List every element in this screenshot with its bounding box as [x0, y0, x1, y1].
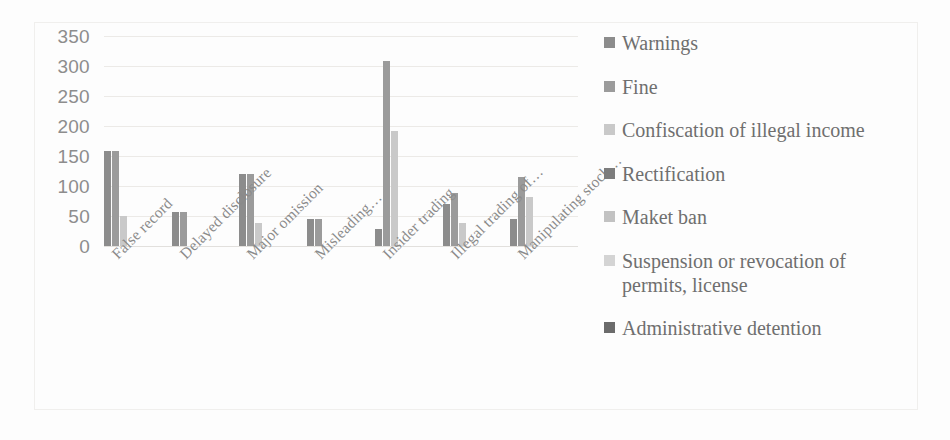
legend-item[interactable]: Suspension or revocation of permits, lic…: [604, 250, 934, 297]
y-axis-tick-label: 200: [38, 117, 90, 136]
legend-swatch-icon: [604, 37, 615, 48]
legend-swatch-icon: [604, 255, 615, 266]
legend-swatch-icon: [604, 124, 615, 135]
legend-swatch-icon: [604, 322, 615, 333]
y-axis-tick-label: 250: [38, 87, 90, 106]
legend-label: Administrative detention: [622, 317, 821, 341]
bar: [375, 229, 382, 246]
legend-label: Fine: [622, 76, 658, 100]
legend-item[interactable]: Administrative detention: [604, 317, 934, 341]
legend-item[interactable]: Fine: [604, 76, 934, 100]
y-axis-tick-label: 50: [38, 207, 90, 226]
bar: [383, 61, 390, 246]
bar: [391, 131, 398, 246]
legend-swatch-icon: [604, 211, 615, 222]
bar: [307, 219, 314, 246]
legend-label: Maket ban: [622, 206, 707, 230]
bar-chart-figure: 350300250200150100500 False recordDelaye…: [0, 0, 950, 440]
bar: [112, 151, 119, 246]
legend-item[interactable]: Rectification: [604, 163, 934, 187]
y-axis-tick-label: 150: [38, 147, 90, 166]
x-axis-category-labels: False recordDelayed disclosureMajor omis…: [38, 246, 578, 396]
legend-swatch-icon: [604, 168, 615, 179]
legend-item[interactable]: Confiscation of illegal income: [604, 119, 934, 143]
y-axis-tick-label: 100: [38, 177, 90, 196]
legend-label: Warnings: [622, 32, 698, 56]
chart-legend: WarningsFineConfiscation of illegal inco…: [604, 32, 934, 361]
legend-item[interactable]: Maket ban: [604, 206, 934, 230]
y-axis-tick-label: 300: [38, 57, 90, 76]
bar: [510, 219, 517, 246]
legend-label: Rectification: [622, 163, 725, 187]
legend-label: Confiscation of illegal income: [622, 119, 865, 143]
bar: [172, 212, 179, 246]
legend-item[interactable]: Warnings: [604, 32, 934, 56]
legend-swatch-icon: [604, 81, 615, 92]
bar: [104, 151, 111, 246]
y-axis: 350300250200150100500: [38, 36, 96, 246]
legend-label: Suspension or revocation of permits, lic…: [622, 250, 912, 297]
y-axis-tick-label: 350: [38, 27, 90, 46]
